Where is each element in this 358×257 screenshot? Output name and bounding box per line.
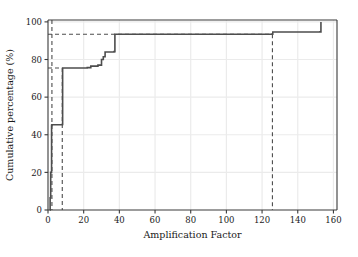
y-tick-label: 0 (37, 205, 42, 215)
y-axis-ticks: 020406080100 (26, 17, 48, 215)
x-tick-label: 60 (150, 215, 161, 225)
y-tick-label: 100 (26, 17, 42, 27)
x-axis-ticks: 020406080100120140160 (45, 210, 341, 225)
x-tick-label: 20 (78, 215, 89, 225)
cumulative-distribution-chart: 020406080100120140160020406080100Amplifi… (0, 0, 358, 257)
y-axis-title: Cumulative percentage (%) (4, 49, 15, 181)
y-tick-label: 40 (31, 130, 42, 140)
x-tick-label: 160 (325, 215, 341, 225)
x-tick-label: 80 (185, 215, 196, 225)
data-series-group (50, 22, 321, 210)
gridlines (48, 20, 337, 210)
x-tick-label: 40 (114, 215, 125, 225)
x-tick-label: 0 (45, 215, 50, 225)
y-tick-label: 80 (31, 55, 42, 65)
chart-figure: 020406080100120140160020406080100Amplifi… (0, 0, 358, 257)
annotation-guides (48, 20, 272, 210)
x-axis-title: Amplification Factor (142, 229, 242, 240)
y-tick-label: 20 (31, 168, 42, 178)
x-tick-label: 100 (218, 215, 234, 225)
x-tick-label: 120 (254, 215, 270, 225)
axis-frame (48, 20, 337, 210)
series-line-0 (50, 22, 321, 210)
x-tick-label: 140 (290, 215, 306, 225)
y-tick-label: 60 (31, 92, 42, 102)
